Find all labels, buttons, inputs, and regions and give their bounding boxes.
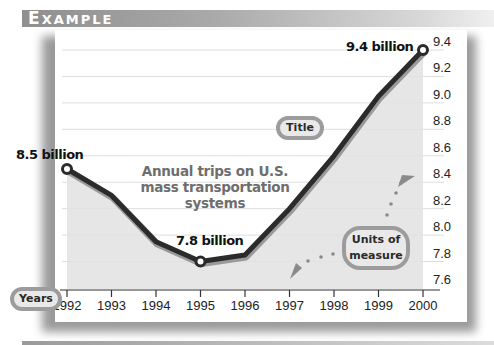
units-callout: Units of measure: [342, 226, 410, 270]
x-tick-label: 1994: [136, 298, 176, 313]
years-callout: Years: [10, 287, 62, 311]
y-tick-label: 8.8: [433, 113, 451, 128]
x-tick-label: 1999: [359, 298, 399, 313]
y-tick-label: 8.4: [433, 166, 451, 181]
annotation-1992: 8.5 billion: [16, 147, 83, 162]
y-tick-label: 8.6: [433, 140, 451, 155]
x-tick-marks: [67, 290, 423, 297]
x-tick-label: 1996: [225, 298, 265, 313]
units-callout-line-2: measure: [346, 248, 406, 264]
y-tick-label: 7.8: [433, 246, 451, 261]
title-callout: Title: [276, 116, 324, 140]
y-tick-label: 9.4: [433, 34, 451, 49]
units-callout-line-1: Units of: [346, 232, 406, 248]
chart-title-line-2: mass transportation: [135, 179, 295, 195]
chart-title-line-1: Annual trips on U.S.: [135, 163, 295, 179]
annotation-1995: 7.8 billion: [176, 233, 243, 248]
y-tick-label: 7.6: [433, 272, 451, 287]
x-tick-label: 1993: [92, 298, 132, 313]
y-tick-label: 8.0: [433, 219, 451, 234]
chart-title: Annual trips on U.S. mass transportation…: [135, 163, 295, 211]
annotation-2000: 9.4 billion: [346, 39, 413, 54]
y-tick-label: 9.0: [433, 87, 451, 102]
y-tick-label: 9.2: [433, 60, 451, 75]
y-tick-label: 8.2: [433, 193, 451, 208]
x-tick-label: 1997: [270, 298, 310, 313]
x-tick-label: 1998: [314, 298, 354, 313]
chart-title-line-3: systems: [135, 195, 295, 211]
x-tick-label: 1995: [181, 298, 221, 313]
x-tick-label: 2000: [403, 298, 443, 313]
